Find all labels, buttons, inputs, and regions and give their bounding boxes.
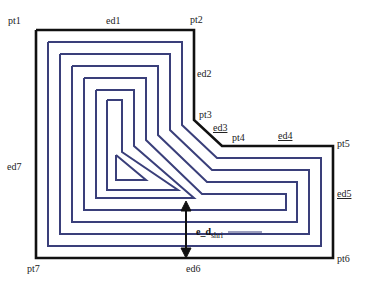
label-pt5: pt5: [337, 139, 350, 149]
label-ed1: ed1: [106, 16, 120, 26]
label-pt6: pt6: [337, 254, 350, 264]
label-pt1: pt1: [8, 16, 21, 26]
label-pt3: pt3: [199, 110, 212, 120]
label-ed5: ed5: [337, 189, 351, 199]
dimension-subscript: shri: [211, 231, 223, 240]
label-pt2: pt2: [190, 15, 203, 25]
dimension-label: e_dshri: [196, 226, 223, 240]
offset-contours: [48, 42, 321, 246]
label-ed3: ed3: [213, 123, 227, 133]
label-ed7: ed7: [7, 162, 21, 172]
contour-offset-diagram: [0, 0, 371, 281]
label-ed4: ed4: [278, 131, 292, 141]
label-pt4: pt4: [232, 133, 245, 143]
label-pt7: pt7: [27, 264, 40, 274]
label-ed2: ed2: [197, 69, 211, 79]
dimension-main: e_d: [196, 226, 211, 237]
label-ed6: ed6: [186, 264, 200, 274]
